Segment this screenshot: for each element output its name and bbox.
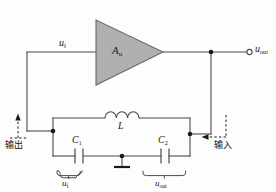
arrow-output-up [10, 114, 27, 139]
node-dot-tank-right [188, 132, 193, 137]
label-c1-sub: 1 [79, 139, 82, 146]
label-brace-uf-sub: f [67, 183, 69, 189]
arrow-input-head [202, 134, 209, 139]
arrow-input-left [202, 115, 227, 140]
brace-left [57, 171, 82, 179]
node-dot-feedback-left [51, 129, 56, 134]
inductor-coils [105, 112, 139, 118]
brace-right [143, 171, 186, 179]
brace-left-path [57, 171, 82, 178]
label-brace-uf-main: u [62, 178, 67, 188]
label-inductor: L [118, 121, 124, 131]
label-brace-uout-main: u [155, 178, 160, 188]
label-chinese-input: 输入 [214, 141, 232, 150]
label-uf-sub: f [64, 42, 66, 49]
output-terminal-circle [247, 49, 252, 54]
node-dot-ground-tap [120, 154, 125, 159]
label-brace-left-voltage: uf [62, 179, 68, 188]
capacitor-C2 [161, 149, 169, 164]
label-c2-main: C [158, 134, 165, 145]
label-brace-right-voltage: uout [155, 179, 167, 188]
label-chinese-output: 输出 [5, 141, 23, 150]
label-uout-sub: out [260, 48, 268, 55]
inductor-L [105, 112, 139, 118]
circuit-diagram-canvas: uf Au uout L C1 C2 uf uout 输出 输入 [0, 0, 276, 192]
arrow-output-head [15, 114, 20, 121]
label-c2-sub: 2 [165, 139, 168, 146]
node-dot-amp-output [209, 50, 214, 55]
amplifier-triangle [96, 20, 163, 85]
brace-right-outline [143, 171, 186, 176]
label-amp-sub: u [119, 50, 122, 57]
label-feedback-voltage-top: uf [59, 38, 66, 48]
label-amplifier-gain: Au [112, 45, 122, 56]
circuit-schematic-svg [0, 0, 276, 192]
label-c1-main: C [72, 134, 79, 145]
label-capacitor-2: C2 [158, 135, 168, 145]
label-output-terminal: uout [255, 44, 268, 54]
capacitor-C1 [75, 149, 83, 164]
label-amp-main: A [112, 44, 119, 56]
label-capacitor-1: C1 [72, 135, 82, 145]
label-brace-uout-sub: out [160, 183, 167, 189]
